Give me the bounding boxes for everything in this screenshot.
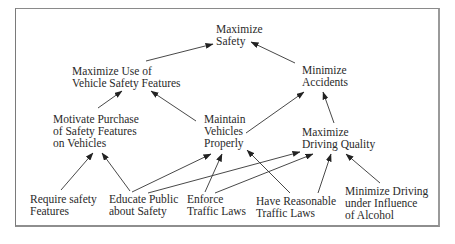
node-maximize-driving-quality: Maximize Driving Quality — [302, 126, 375, 150]
edge-enforce-to-driving — [215, 154, 313, 193]
edge-driving-to-accidents — [323, 92, 334, 123]
edge-motivate-to-use — [98, 91, 122, 108]
edge-educate-to-motivate — [102, 153, 130, 191]
edge-enforce-to-maintain — [205, 154, 222, 192]
node-line: of Safety Features — [53, 125, 139, 137]
node-line: Driving Quality — [302, 138, 375, 150]
node-require-safety-features: Require safety Features — [30, 193, 97, 217]
node-minimize-accidents: Minimize Accidents — [302, 64, 348, 88]
node-line: under Influence — [345, 197, 428, 209]
node-line: on Vehicles — [53, 137, 139, 149]
node-line: Educate Public — [109, 193, 178, 205]
node-minimize-driving-under-influence: Minimize Driving under Influence of Alco… — [345, 185, 428, 221]
node-enforce-traffic-laws: Enforce Traffic Laws — [187, 193, 246, 217]
node-line: Accidents — [302, 76, 348, 88]
node-line: of Alcohol — [345, 209, 428, 221]
node-line: Require safety — [30, 193, 97, 205]
node-line: Maximize — [302, 126, 375, 138]
node-line: Minimize — [302, 64, 348, 76]
node-maintain-vehicles-properly: Maintain Vehicles Properly — [204, 113, 246, 149]
node-line: Have Reasonable — [256, 195, 336, 207]
node-line: Motivate Purchase — [53, 113, 139, 125]
node-educate-public: Educate Public about Safety — [109, 193, 178, 217]
node-line: Vehicles — [204, 125, 246, 137]
node-have-reasonable-traffic-laws: Have Reasonable Traffic Laws — [256, 195, 336, 219]
node-motivate-purchase: Motivate Purchase of Safety Features on … — [53, 113, 139, 149]
node-line: Maintain — [204, 113, 246, 125]
node-line: Traffic Laws — [187, 205, 246, 217]
node-line: Minimize Driving — [345, 185, 428, 197]
edge-reasonable-to-driving — [318, 154, 331, 193]
node-line: Properly — [204, 137, 246, 149]
edge-educate-to-driving — [148, 152, 300, 193]
edge-use-to-safety — [146, 44, 213, 61]
node-maximize-safety: Maximize Safety — [216, 23, 263, 47]
edge-require-to-motivate — [61, 153, 93, 190]
edge-maintain-to-use — [151, 91, 196, 121]
node-line: Maximize — [216, 23, 263, 35]
node-line: Traffic Laws — [256, 207, 336, 219]
node-line: Enforce — [187, 193, 246, 205]
node-line: Vehicle Safety Features — [72, 77, 181, 89]
node-line: about Safety — [109, 205, 178, 217]
node-line: Safety — [216, 35, 263, 47]
edge-maintain-to-accidents — [246, 92, 304, 133]
node-maximize-use-of-vehicle-safety-features: Maximize Use of Vehicle Safety Features — [72, 65, 181, 89]
edge-dui-to-driving — [346, 154, 380, 183]
node-line: Maximize Use of — [72, 65, 181, 77]
node-line: Features — [30, 205, 97, 217]
